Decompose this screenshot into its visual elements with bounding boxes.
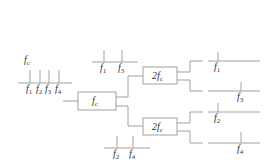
stage1-filter-box: fc — [78, 92, 116, 110]
stage2-lower-filter-box: 2fc — [143, 118, 177, 135]
stage2-lower-connector-a — [177, 112, 203, 123]
output-label-f2: f2 — [214, 112, 221, 125]
output-spectrum-f2: f2 — [208, 103, 260, 125]
output-spectrum-f4: f4 — [208, 132, 260, 156]
tone-label-f1: f1 — [26, 83, 33, 96]
stage2-upper-filter-box: 2fc — [143, 67, 177, 84]
upper-tone-label-f3: f3 — [118, 62, 125, 75]
output-spectrum-f1: f1 — [208, 52, 260, 74]
output-label-f1: f1 — [214, 61, 221, 74]
upper-intermediate-spectrum: f1 f3 — [92, 50, 138, 75]
carrier-label: fc — [24, 54, 30, 67]
stage2-upper-connector-b — [177, 80, 203, 91]
stage2-lower-connector-b — [177, 131, 203, 143]
lower-tone-label-f2: f2 — [113, 148, 120, 161]
filter-bank-diagram: fc f1 f2 f3 f4 fc f1 f3 f2 f4 2fc — [0, 0, 277, 166]
stage1-lower-connector — [116, 106, 143, 126]
output-spectrum-f3: f3 — [208, 82, 260, 104]
tone-label-f2: f2 — [36, 83, 43, 96]
tone-label-f3: f3 — [45, 83, 52, 96]
lower-tone-label-f4: f4 — [129, 148, 136, 161]
stage1-upper-connector — [116, 76, 143, 97]
lower-intermediate-spectrum: f2 f4 — [104, 136, 150, 161]
input-spectrum: fc f1 f2 f3 f4 — [18, 54, 72, 96]
stage2-upper-connector-a — [177, 61, 203, 72]
output-label-f3: f3 — [237, 91, 244, 104]
output-label-f4: f4 — [237, 143, 244, 156]
upper-tone-label-f1: f1 — [100, 62, 107, 75]
tone-label-f4: f4 — [55, 83, 62, 96]
